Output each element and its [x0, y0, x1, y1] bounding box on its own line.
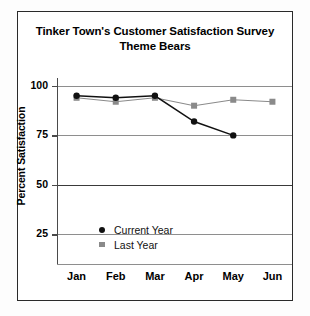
x-tick-label-mar: Mar [133, 270, 177, 282]
chart-title-line1: Tinker Town's Customer Satisfaction Surv… [22, 24, 288, 39]
x-tick-label-feb: Feb [94, 270, 138, 282]
chart-title: Tinker Town's Customer Satisfaction Surv… [22, 24, 288, 54]
data-point [230, 132, 236, 138]
legend-item-current-year: Current Year [95, 222, 173, 237]
x-tick-label-jun: Jun [250, 270, 294, 282]
chart-legend: Current Year Last Year [95, 222, 173, 252]
legend-item-last-year: Last Year [95, 237, 173, 252]
data-point [191, 118, 197, 124]
series-layer [57, 78, 292, 264]
y-axis-title: Percent Satisfaction [15, 91, 27, 221]
y-tick-label-50: 50 [8, 178, 48, 190]
circle-marker-icon [95, 227, 109, 233]
x-axis-line [57, 264, 292, 265]
x-tick-label-may: May [211, 270, 255, 282]
chart-subtitle: Theme Bears [22, 39, 288, 54]
data-point [113, 95, 119, 101]
y-tick-label-100: 100 [8, 79, 48, 91]
y-tick-label-25: 25 [8, 227, 48, 239]
x-tick-label-apr: Apr [172, 270, 216, 282]
square-marker-icon [95, 242, 109, 248]
y-tick-label-75: 75 [8, 128, 48, 140]
data-point [191, 103, 197, 109]
series-line-current-year [77, 96, 234, 136]
data-point [269, 99, 275, 105]
legend-label: Current Year [114, 224, 173, 236]
chart-figure: Tinker Town's Customer Satisfaction Surv… [0, 0, 310, 316]
series-line-last-year [77, 98, 273, 106]
legend-label: Last Year [114, 239, 158, 251]
x-tick-label-jan: Jan [55, 270, 99, 282]
data-point [152, 93, 158, 99]
data-point [230, 97, 236, 103]
data-point [73, 93, 79, 99]
